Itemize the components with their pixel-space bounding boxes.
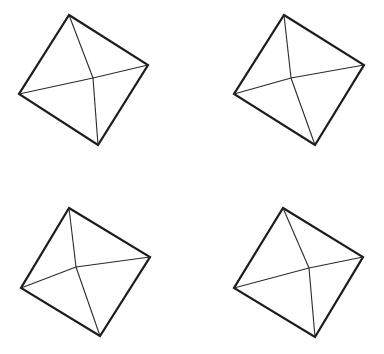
pyramid-1 (19, 15, 148, 145)
pyramid-3-edge-4 (21, 267, 76, 288)
pyramid-1-edge-4 (19, 78, 93, 94)
pyramid-3-edges (21, 208, 150, 336)
pyramid-2 (234, 15, 364, 145)
pyramid-1-edge-2 (93, 65, 148, 78)
pyramid-4-edge-2 (309, 257, 363, 268)
pyramid-1-edge-1 (69, 15, 93, 78)
pyramid-3 (21, 208, 150, 336)
pyramid-1-edges (19, 15, 148, 145)
pyramid-2-edge-1 (284, 15, 291, 78)
pyramid-4-outline (234, 208, 363, 337)
pyramid-3-edge-3 (76, 267, 100, 336)
pyramid-2-edges (234, 15, 364, 145)
pyramid-4-edge-3 (309, 268, 315, 337)
pyramid-2-edge-3 (291, 78, 315, 145)
pyramid-4 (234, 208, 363, 337)
pyramid-3-edge-1 (69, 208, 76, 267)
diagram-canvas (0, 0, 384, 354)
pyramid-1-edge-3 (93, 78, 98, 145)
pyramid-2-outline (234, 15, 364, 145)
pyramid-3-outline (21, 208, 150, 336)
pyramid-4-edges (234, 208, 363, 337)
pyramid-2-edge-2 (291, 65, 364, 78)
pyramid-3-edge-2 (76, 257, 150, 267)
